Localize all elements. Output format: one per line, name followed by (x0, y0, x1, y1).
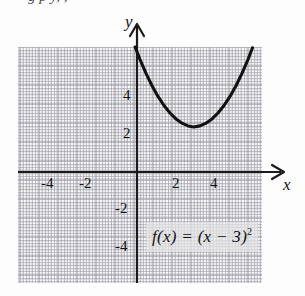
y-tick-label-2: 2 (123, 125, 131, 142)
function-equation-label: f(x) = (x − 3)2 (146, 222, 258, 252)
x-tick-label-neg2: -2 (79, 175, 92, 192)
equation-exponent: 2 (247, 226, 252, 237)
parabola-curve (135, 47, 252, 127)
x-tick-label-2: 2 (172, 175, 180, 192)
y-axis-label: y (125, 12, 133, 32)
x-tick-label-4: 4 (210, 175, 218, 192)
equation-base: f(x) = (x − 3) (152, 227, 247, 246)
y-tick-label-neg2: -2 (115, 200, 128, 217)
y-tick-label-neg4: -4 (115, 238, 128, 255)
y-tick-label-4: 4 (123, 87, 131, 104)
x-axis (18, 165, 284, 179)
graph-figure: g p y, , y x -4 -2 2 4 4 2 -2 -4 f(x) = … (0, 0, 305, 296)
x-tick-label-neg4: -4 (41, 175, 54, 192)
x-axis-label: x (283, 175, 291, 195)
